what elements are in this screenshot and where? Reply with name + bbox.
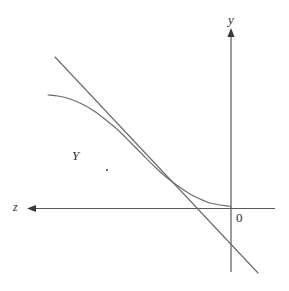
origin-label: 0 bbox=[236, 211, 243, 224]
vertical-axis bbox=[227, 28, 234, 272]
horizontal-axis-arrowhead-icon bbox=[27, 205, 36, 212]
stray-dot-mark bbox=[106, 169, 108, 171]
figure-canvas: y z 0 Y bbox=[0, 0, 289, 291]
vertical-axis-arrowhead-icon bbox=[227, 28, 234, 37]
y-axis-label: y bbox=[228, 13, 234, 26]
curve-label-Y: Y bbox=[72, 149, 79, 162]
plot-svg bbox=[0, 0, 289, 291]
tangent-line bbox=[55, 57, 258, 273]
z-axis-label: z bbox=[13, 201, 18, 213]
